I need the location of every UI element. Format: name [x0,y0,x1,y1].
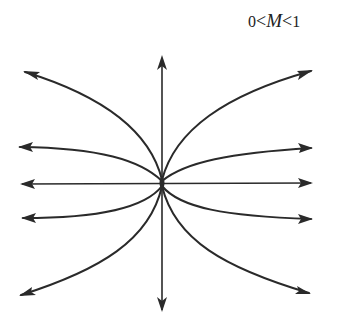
trajectory-mid-lower-right [162,186,311,219]
trajectory-upper-left [25,72,162,180]
trajectory-mid-upper-right [162,148,311,181]
trajectory-mid-upper-left [20,147,162,181]
trajectory-mid-lower-left [23,186,162,218]
horizontal-axis-trajectory [22,183,311,184]
trajectory-upper-right [162,71,311,180]
unstable-node-center [160,177,165,189]
phase-portrait [0,0,340,325]
